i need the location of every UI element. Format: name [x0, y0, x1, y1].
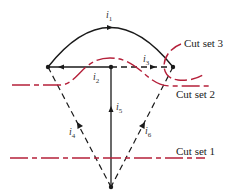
branch-i1 — [48, 28, 173, 68]
cut-set-diagram: i1 i2 i3 i4 i5 i6 Cut set 1 Cut set 2 Cu… — [0, 0, 228, 194]
node-bottom — [109, 185, 113, 189]
arrow-icon — [77, 122, 83, 129]
label-i4: i4 — [69, 126, 76, 140]
label-i2: i2 — [93, 71, 100, 85]
label-i6: i6 — [145, 125, 152, 139]
node-center — [109, 65, 113, 69]
cut-set-2-label: Cut set 2 — [176, 88, 215, 100]
arrow-icon — [109, 106, 114, 112]
label-i3: i3 — [143, 53, 150, 67]
node-left — [46, 65, 50, 69]
arrow-icon — [58, 65, 64, 70]
cut-set-3-line — [164, 44, 203, 80]
node-right — [171, 65, 175, 69]
cut-set-2-line — [12, 58, 212, 86]
cut-set-3-label: Cut set 3 — [184, 37, 224, 49]
arrow-icon — [150, 65, 156, 70]
label-i1: i1 — [106, 9, 113, 23]
label-i5: i5 — [116, 101, 123, 115]
arrow-icon — [107, 25, 113, 30]
cut-set-1-label: Cut set 1 — [176, 145, 215, 157]
